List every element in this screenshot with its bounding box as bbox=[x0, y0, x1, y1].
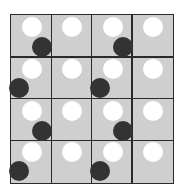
black-circle bbox=[32, 121, 52, 141]
white-circle bbox=[143, 59, 163, 79]
puzzle-grid bbox=[10, 14, 174, 184]
white-circle bbox=[22, 59, 42, 79]
white-circle bbox=[103, 101, 123, 121]
white-circle bbox=[62, 101, 82, 121]
white-circle bbox=[143, 101, 163, 121]
white-circle bbox=[62, 59, 82, 79]
white-circle bbox=[22, 17, 42, 37]
white-circle bbox=[103, 17, 123, 37]
white-circle bbox=[22, 101, 42, 121]
white-circle bbox=[143, 142, 163, 162]
white-circle bbox=[103, 142, 123, 162]
white-circle bbox=[103, 59, 123, 79]
black-circle bbox=[90, 161, 110, 181]
black-circle bbox=[9, 78, 29, 98]
black-circle bbox=[113, 121, 133, 141]
black-circle bbox=[90, 78, 110, 98]
black-circle bbox=[32, 37, 52, 57]
white-circle bbox=[143, 17, 163, 37]
black-circle bbox=[113, 37, 133, 57]
